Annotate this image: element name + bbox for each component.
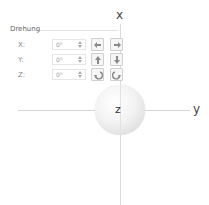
rotation-group-title: Drehung bbox=[10, 25, 40, 33]
y-rotation-label: Y: bbox=[18, 56, 24, 64]
z-rotation-label: Z: bbox=[18, 71, 25, 79]
y-rotate-up-button[interactable] bbox=[91, 53, 104, 66]
x-axis-label: x bbox=[116, 8, 123, 22]
spin-up-icon[interactable] bbox=[78, 41, 82, 44]
x-rotation-label: X: bbox=[18, 41, 25, 49]
spin-down-icon[interactable] bbox=[78, 45, 82, 48]
z-rotation-value: 0° bbox=[56, 71, 63, 78]
spin-down-icon[interactable] bbox=[78, 75, 82, 78]
spin-up-icon[interactable] bbox=[78, 56, 82, 59]
z-rotate-ccw-button[interactable] bbox=[91, 68, 104, 81]
z-rotation-spinner[interactable] bbox=[77, 71, 83, 79]
x-rotate-right-button[interactable] bbox=[110, 38, 123, 51]
spin-up-icon[interactable] bbox=[78, 71, 82, 74]
rotate-up-icon bbox=[93, 55, 103, 65]
rotate-down-icon bbox=[112, 55, 122, 65]
z-rotate-cw-button[interactable] bbox=[110, 68, 123, 81]
x-rotation-spinner[interactable] bbox=[77, 41, 83, 49]
y-axis-label: y bbox=[193, 102, 200, 116]
rotate-right-icon bbox=[112, 40, 122, 50]
z-rotation-input[interactable]: 0° bbox=[52, 69, 86, 80]
y-rotation-input[interactable]: 0° bbox=[52, 54, 86, 65]
rotate-left-icon bbox=[93, 40, 103, 50]
y-rotate-down-button[interactable] bbox=[110, 53, 123, 66]
rotate-clockwise-icon bbox=[112, 70, 122, 80]
x-rotate-left-button[interactable] bbox=[91, 38, 104, 51]
x-rotation-input[interactable]: 0° bbox=[52, 39, 86, 50]
x-rotation-value: 0° bbox=[56, 41, 63, 48]
spin-down-icon[interactable] bbox=[78, 60, 82, 63]
group-separator bbox=[40, 30, 118, 31]
z-axis-label: z bbox=[115, 103, 121, 116]
rotate-counterclockwise-icon bbox=[93, 70, 103, 80]
y-rotation-spinner[interactable] bbox=[77, 56, 83, 64]
y-rotation-value: 0° bbox=[56, 56, 63, 63]
